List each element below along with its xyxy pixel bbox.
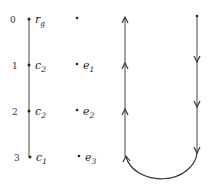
right-diagram [122, 15, 200, 179]
node-dot [28, 18, 31, 21]
node-dot [29, 156, 32, 159]
row-index: 2 [12, 107, 18, 117]
side-label: e3 [85, 151, 97, 166]
bottom-arc [126, 153, 197, 179]
side-dot [76, 17, 79, 20]
side-label: e2 [83, 105, 95, 120]
row-0: 0 rg [10, 13, 78, 28]
node-label: c1 [36, 151, 47, 166]
start-dot [196, 15, 199, 18]
row-2: 2 c2 e2 [12, 105, 95, 120]
row-1: 1 c2 e1 [12, 59, 94, 74]
side-dot [76, 109, 79, 112]
left-diagram: 0 rg 1 c2 e1 2 c2 e2 3 c1 e3 [10, 13, 97, 166]
row-index: 0 [10, 15, 16, 25]
row-index: 3 [14, 153, 20, 163]
row-index: 1 [12, 61, 18, 71]
row-3: 3 c1 e3 [14, 151, 97, 166]
node-label: c2 [35, 105, 46, 120]
node-dot [28, 64, 31, 67]
side-dot [78, 155, 81, 158]
diagram-canvas: 0 rg 1 c2 e1 2 c2 e2 3 c1 e3 [0, 0, 212, 189]
node-label: rg [35, 13, 45, 28]
side-label: e1 [83, 59, 94, 74]
side-dot [76, 63, 79, 66]
node-dot [28, 110, 31, 113]
node-label: c2 [35, 59, 46, 74]
